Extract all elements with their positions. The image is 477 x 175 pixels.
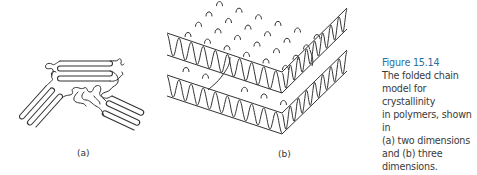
lower-surface-fold-arch bbox=[183, 68, 189, 73]
caption-line: model for crystallinity bbox=[382, 83, 435, 107]
caption-line: dimensions. bbox=[382, 161, 438, 172]
top-surface-fold-arch bbox=[263, 59, 269, 64]
top-surface-fold-arch bbox=[236, 8, 242, 13]
top-slab-front-lower-edge bbox=[167, 55, 282, 93]
panel-b-label: (b) bbox=[278, 149, 291, 159]
panel-a-label: (a) bbox=[77, 148, 90, 158]
top-surface-fold-arch bbox=[275, 21, 281, 26]
top-surface-fold-arch bbox=[283, 66, 289, 71]
top-surface-fold-arch bbox=[226, 19, 232, 24]
top-surface-fold-arch bbox=[224, 46, 230, 51]
lamella-left bbox=[20, 86, 63, 127]
top-surface-fold-arch bbox=[265, 32, 271, 37]
lower-surface-fold-arch bbox=[242, 87, 248, 92]
figure-caption: Figure 15.14 The folded chain model for … bbox=[382, 56, 477, 173]
lamella-top bbox=[58, 61, 113, 81]
top-surface-fold-arch bbox=[215, 29, 221, 34]
folded-chain-waves bbox=[167, 9, 347, 133]
top-slab-right-upper-edge bbox=[282, 8, 347, 72]
caption-line: The folded chain bbox=[382, 70, 459, 81]
top-surface-fold-arch bbox=[245, 25, 251, 30]
top-surface-fold-arch bbox=[217, 2, 223, 7]
caption-line: in polymers, shown in bbox=[382, 109, 472, 133]
top-surface-fold-arch bbox=[284, 38, 290, 43]
lower-surface-fold-arch bbox=[203, 74, 209, 79]
top-surface-fold-arch bbox=[256, 15, 262, 19]
caption-line: (a) two dimensions bbox=[382, 135, 470, 146]
top-surface-fold-arch bbox=[274, 49, 280, 54]
top-surface-fold-arch bbox=[254, 42, 260, 47]
lower-surface-fold-arch bbox=[261, 94, 267, 99]
fold-surface-arches bbox=[183, 2, 320, 105]
figure-number: Figure 15.14 bbox=[382, 56, 477, 69]
top-surface-fold-arch bbox=[185, 33, 191, 38]
bottom-slab-right-upper-edge bbox=[282, 50, 347, 113]
top-surface-fold-arch bbox=[244, 52, 250, 57]
caption-line: and (b) three bbox=[382, 148, 443, 159]
bottom-slab-front-wave bbox=[167, 76, 282, 133]
top-surface-fold-arch bbox=[196, 22, 202, 27]
top-surface-fold-arch bbox=[295, 28, 301, 33]
top-surface-fold-arch bbox=[235, 35, 241, 40]
lamella-right bbox=[102, 96, 143, 130]
bottom-slab-right-lower-edge bbox=[282, 71, 347, 134]
top-surface-fold-arch bbox=[205, 39, 211, 44]
top-slab-front-upper-edge bbox=[167, 33, 282, 72]
lower-surface-fold-arch bbox=[281, 101, 287, 106]
top-slab-front-wave bbox=[167, 34, 282, 93]
top-slab-right-wave bbox=[282, 9, 347, 88]
bottom-slab-front-lower-edge bbox=[167, 96, 282, 134]
panel-a-diagram bbox=[20, 59, 144, 130]
top-surface-fold-arch bbox=[206, 12, 212, 17]
panel-b-diagram bbox=[167, 2, 347, 134]
